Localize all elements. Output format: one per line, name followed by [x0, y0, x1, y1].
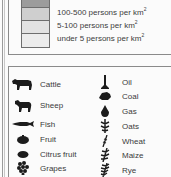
- legend-item-sheep: Sheep: [12, 98, 63, 112]
- rye-icon: [94, 163, 116, 177]
- legend-item-fish: Fish: [12, 117, 55, 131]
- fruit-icon: [12, 132, 34, 146]
- maize-icon: [94, 148, 116, 162]
- legend-item-oil: Oil: [94, 75, 132, 89]
- legend-item-coal: Coal: [94, 89, 138, 103]
- density-label-100-500: 100-500 persons per km2: [57, 5, 147, 17]
- sheep-icon: [12, 98, 34, 112]
- oil-icon: [94, 75, 116, 89]
- density-label-under-5: under 5 persons per km2: [57, 31, 144, 43]
- swatch-500-plus: [22, 0, 49, 8]
- legend-item-fruit: Fruit: [12, 132, 56, 146]
- wheat-icon: [94, 134, 116, 148]
- legend-item-oats: Oats: [94, 119, 139, 133]
- legend-item-citrus-fruit: Citrus fruit: [12, 147, 76, 161]
- page-edge-line-inner: [4, 0, 5, 177]
- gas-icon: [94, 104, 116, 118]
- density-swatches: [21, 0, 50, 48]
- legend-item-cattle: Cattle: [12, 77, 61, 91]
- swatch-under-5: [22, 34, 49, 47]
- swatch-5-100: [22, 21, 49, 34]
- legend-item-wheat: Wheat: [94, 134, 145, 148]
- oats-icon: [94, 119, 116, 133]
- coal-icon: [94, 89, 116, 103]
- legend-item-grapes: Grapes: [12, 161, 66, 175]
- fish-icon: [12, 117, 34, 131]
- grapes-icon: [12, 161, 34, 175]
- swatch-100-500: [22, 8, 49, 21]
- density-label-5-100: 5-100 persons per km2: [57, 18, 138, 30]
- citrus-fruit-icon: [12, 147, 34, 161]
- legend-item-gas: Gas: [94, 104, 137, 118]
- legend-item-maize: Maize: [94, 148, 143, 162]
- cattle-icon: [12, 77, 34, 91]
- legend-item-rye: Rye: [94, 163, 136, 177]
- page-edge-line: [2, 0, 3, 177]
